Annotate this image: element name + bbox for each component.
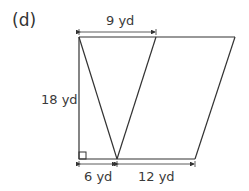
trapezoid-diagram [0, 0, 249, 191]
top-dimension-label: 9 yd [106, 14, 134, 27]
right-slant-edge [195, 37, 235, 159]
diagonal-left [79, 37, 117, 159]
bottom-right-dimension-label: 12 yd [138, 170, 175, 183]
diagonal-right [117, 37, 156, 159]
bottom-left-dimension-label: 6 yd [84, 170, 112, 183]
right-angle-marker [79, 152, 86, 159]
height-dimension-label: 18 yd [41, 93, 78, 106]
